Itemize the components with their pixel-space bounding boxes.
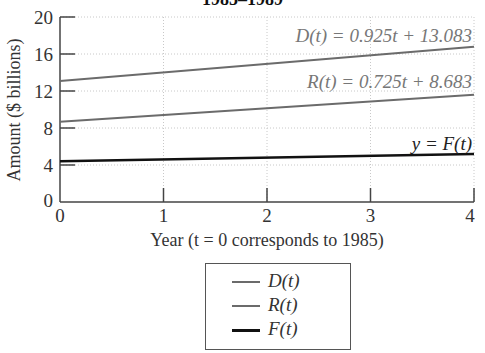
legend-item-d: D(t) [206,270,350,292]
y-tick-labels: 20 16 12 8 4 0 [34,7,54,211]
x-axis-title: Year (t = 0 corresponds to 1985) [150,230,383,251]
x-tick-1: 1 [159,205,169,226]
x-tick-labels: 0 1 2 3 4 [55,205,475,226]
legend-label-f: F(t) [268,318,298,340]
x-tick-0: 0 [55,205,65,226]
legend-swatch-f [232,329,260,332]
legend-item-r: R(t) [206,294,350,316]
y-tick-16: 16 [34,44,53,65]
x-tick-4: 4 [465,205,475,226]
y-tick-4: 4 [44,155,54,176]
y-tick-20: 20 [34,7,53,28]
plot-area: 20 16 12 8 4 0 0 1 2 3 4 Year (t = 0 cor… [0,0,485,262]
legend-swatch-d [232,281,260,283]
y-axis-title: Amount ($ billions) [4,38,25,181]
legend-label-r: R(t) [268,294,298,316]
equation-f: y = F(t) [410,133,472,155]
legend: D(t) R(t) F(t) [205,263,351,350]
y-tick-0: 0 [44,190,54,211]
equation-d: D(t) = 0.925t + 13.083 [294,25,472,47]
legend-item-f: F(t) [206,318,350,340]
y-tick-8: 8 [44,118,54,139]
y-tick-12: 12 [34,81,53,102]
legend-swatch-r [232,305,260,307]
legend-label-d: D(t) [268,270,300,292]
x-tick-2: 2 [262,205,272,226]
x-tick-3: 3 [366,205,376,226]
equation-r: R(t) = 0.725t + 8.683 [306,71,472,93]
